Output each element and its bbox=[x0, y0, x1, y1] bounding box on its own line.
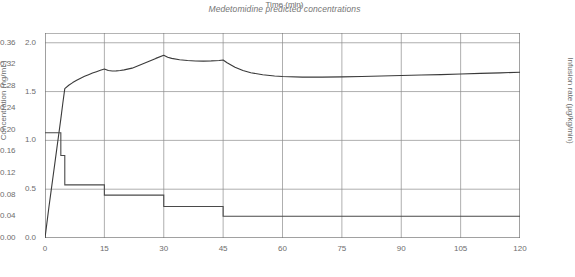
chart-title: Medetomidine predicted concentrations bbox=[0, 4, 569, 14]
x-tick-label: 15 bbox=[84, 244, 124, 253]
y-tick-label-right: 0.16 bbox=[0, 146, 16, 155]
x-tick-label: 120 bbox=[500, 244, 540, 253]
x-tick-label: 45 bbox=[203, 244, 243, 253]
y-tick-label-right: 0.24 bbox=[0, 103, 16, 112]
y-axis-right-title: Infusion rate (µg/kg/min) bbox=[566, 1, 575, 201]
x-tick-label: 0 bbox=[25, 244, 65, 253]
y-tick-label-right: 0.08 bbox=[0, 190, 16, 199]
y-tick-label-right: 0.20 bbox=[0, 125, 16, 134]
y-tick-label-right: 0.36 bbox=[0, 38, 16, 47]
x-tick-label: 90 bbox=[381, 244, 421, 253]
chart-plot-svg bbox=[45, 33, 520, 238]
x-tick-label: 30 bbox=[144, 244, 184, 253]
y-tick-label-right: 0.00 bbox=[0, 233, 16, 242]
x-tick-label: 75 bbox=[322, 244, 362, 253]
y-tick-label-right: 0.28 bbox=[0, 81, 16, 90]
x-tick-label: 105 bbox=[441, 244, 481, 253]
x-tick-label: 60 bbox=[263, 244, 303, 253]
gridlines bbox=[45, 33, 520, 238]
y-tick-label-right: 0.32 bbox=[0, 59, 16, 68]
y-tick-label-left: 1.0 bbox=[0, 135, 36, 144]
plot-area bbox=[45, 33, 520, 238]
y-tick-label-right: 0.04 bbox=[0, 211, 16, 220]
y-tick-label-right: 0.12 bbox=[0, 168, 16, 177]
